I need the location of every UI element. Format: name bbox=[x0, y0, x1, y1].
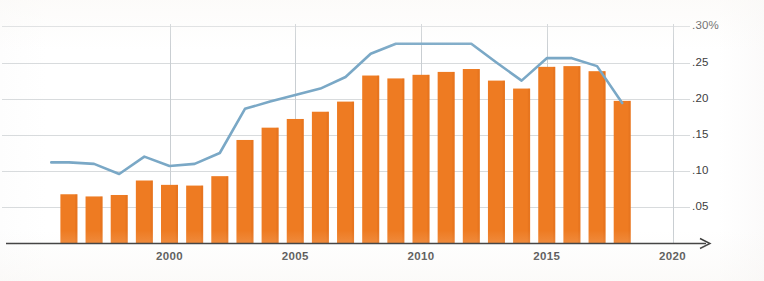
bar[interactable] bbox=[111, 195, 128, 244]
bar[interactable] bbox=[614, 101, 631, 244]
bar-shading bbox=[352, 102, 354, 244]
x-tick-2005: 2005 bbox=[282, 250, 309, 262]
bar[interactable] bbox=[287, 119, 304, 244]
bar-shading bbox=[75, 194, 77, 243]
bar-shading bbox=[503, 81, 505, 244]
bar[interactable] bbox=[211, 176, 228, 243]
bar-shading bbox=[151, 181, 153, 244]
bar-shading bbox=[629, 101, 631, 244]
y-tick-30: .30% bbox=[692, 19, 719, 31]
bar[interactable] bbox=[262, 128, 279, 244]
bar-shading bbox=[578, 66, 580, 243]
bar[interactable] bbox=[513, 89, 530, 244]
bar-shading bbox=[402, 78, 404, 243]
bar[interactable] bbox=[563, 66, 580, 243]
bar[interactable] bbox=[312, 112, 329, 244]
bar[interactable] bbox=[60, 194, 77, 243]
x-tick-2020: 2020 bbox=[659, 250, 686, 262]
bar-shading bbox=[377, 76, 379, 244]
bar-shading bbox=[528, 89, 530, 244]
bar[interactable] bbox=[538, 67, 555, 244]
bar-shading bbox=[478, 69, 480, 243]
bar-shading bbox=[553, 67, 555, 244]
bar-shading bbox=[226, 176, 228, 243]
bar-shading bbox=[251, 140, 253, 244]
bar-shading bbox=[201, 186, 203, 244]
bar[interactable] bbox=[488, 81, 505, 244]
x-tick-2015: 2015 bbox=[533, 250, 560, 262]
bar[interactable] bbox=[438, 72, 455, 244]
bar-shading bbox=[176, 185, 178, 244]
bar-series bbox=[60, 66, 630, 243]
y-tick-10: .10 bbox=[692, 164, 709, 176]
bar-shading bbox=[452, 72, 454, 244]
bar[interactable] bbox=[161, 185, 178, 244]
bar[interactable] bbox=[86, 196, 103, 243]
bar-shading bbox=[126, 195, 128, 244]
bar-shading bbox=[100, 196, 102, 243]
bar-shading bbox=[302, 119, 304, 244]
bar[interactable] bbox=[136, 181, 153, 244]
bar-shading bbox=[327, 112, 329, 244]
bar[interactable] bbox=[337, 102, 354, 244]
bar[interactable] bbox=[589, 71, 606, 243]
bar-shading bbox=[276, 128, 278, 244]
y-tick-05: .05 bbox=[692, 200, 709, 212]
chart-plot-area bbox=[0, 0, 764, 281]
x-tick-2000: 2000 bbox=[156, 250, 183, 262]
bar[interactable] bbox=[236, 140, 253, 244]
bar-shading bbox=[603, 71, 605, 243]
y-tick-25: .25 bbox=[692, 56, 709, 68]
bar-shading bbox=[427, 75, 429, 244]
x-tick-2010: 2010 bbox=[408, 250, 435, 262]
bar[interactable] bbox=[186, 186, 203, 244]
chart-container: .30%.25.20.15.10.05 20002005201020152020 bbox=[0, 0, 764, 281]
bar[interactable] bbox=[413, 75, 430, 244]
bar[interactable] bbox=[463, 69, 480, 243]
y-tick-20: .20 bbox=[692, 92, 709, 104]
bar[interactable] bbox=[362, 76, 379, 244]
bar[interactable] bbox=[387, 78, 404, 243]
y-tick-15: .15 bbox=[692, 128, 709, 140]
